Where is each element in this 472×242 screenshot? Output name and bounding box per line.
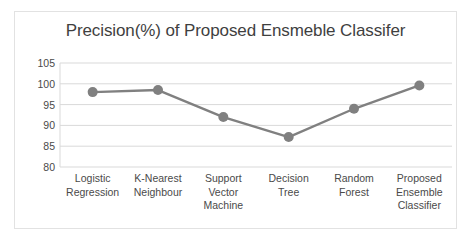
x-axis-category-label: DecisionTree bbox=[256, 169, 321, 227]
x-axis-category-label: LogisticRegression bbox=[60, 169, 125, 227]
x-axis-label-line: Neighbour bbox=[125, 186, 190, 200]
x-axis-label-line: Ensemble bbox=[387, 186, 452, 200]
x-axis-category-label: ProposedEnsembleClassifier bbox=[387, 169, 452, 227]
x-axis-label-line: Tree bbox=[256, 186, 321, 200]
chart-container: Precision(%) of Proposed Ensmeble Classi… bbox=[14, 11, 457, 229]
data-point-marker bbox=[284, 132, 294, 142]
x-axis-category-label: RandomForest bbox=[321, 169, 386, 227]
data-point-marker bbox=[88, 87, 98, 97]
data-point-marker bbox=[414, 80, 424, 90]
x-axis-category-label: K-NearestNeighbour bbox=[125, 169, 190, 227]
x-axis-label-line: Vector bbox=[191, 186, 256, 200]
x-axis-label-line: K-Nearest bbox=[125, 172, 190, 186]
x-axis-category-label: SupportVectorMachine bbox=[191, 169, 256, 227]
x-axis-label-line: Classifier bbox=[387, 199, 452, 213]
x-axis-label-line: Proposed bbox=[387, 172, 452, 186]
x-axis-label-line: Random bbox=[321, 172, 386, 186]
x-axis-label-line: Logistic bbox=[60, 172, 125, 186]
data-point-marker bbox=[349, 104, 359, 114]
x-axis-label-line: Machine bbox=[191, 199, 256, 213]
data-point-marker bbox=[218, 112, 228, 122]
x-axis-label-line: Regression bbox=[60, 186, 125, 200]
series-line bbox=[93, 85, 420, 137]
x-axis-category-labels: LogisticRegressionK-NearestNeighbourSupp… bbox=[60, 169, 452, 227]
data-point-marker bbox=[153, 85, 163, 95]
x-axis-label-line: Decision bbox=[256, 172, 321, 186]
x-axis-label-line: Support bbox=[191, 172, 256, 186]
x-axis-label-line: Forest bbox=[321, 186, 386, 200]
